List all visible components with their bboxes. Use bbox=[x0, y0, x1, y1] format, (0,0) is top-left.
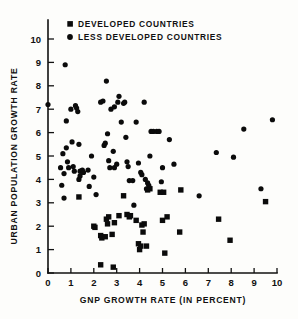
data-point-circle bbox=[71, 164, 76, 169]
series-developed bbox=[76, 186, 268, 270]
data-point-circle bbox=[115, 100, 120, 105]
data-point-circle bbox=[100, 98, 105, 103]
x-axis-tick-label: 4 bbox=[137, 277, 143, 288]
x-axis-tick-label: 8 bbox=[229, 277, 234, 288]
axis-ticks bbox=[48, 39, 277, 273]
data-point-square bbox=[105, 221, 110, 226]
data-point-circle bbox=[147, 153, 152, 158]
data-point-circle bbox=[106, 158, 111, 163]
x-axis-tick-label: 5 bbox=[160, 277, 166, 288]
data-point-circle bbox=[241, 126, 246, 131]
data-point-circle bbox=[107, 165, 112, 170]
data-point-circle bbox=[160, 165, 165, 170]
data-point-circle bbox=[124, 159, 129, 164]
data-point-square bbox=[177, 229, 182, 234]
y-axis-tick-label: 6 bbox=[36, 127, 41, 138]
data-point-circle bbox=[63, 62, 68, 67]
x-axis-tick-label: 0 bbox=[45, 277, 50, 288]
data-point-circle bbox=[131, 203, 136, 208]
legend-marker-circle bbox=[67, 34, 73, 40]
data-point-square bbox=[144, 243, 149, 248]
data-point-circle bbox=[116, 94, 121, 99]
data-point-circle bbox=[139, 172, 144, 177]
data-point-circle bbox=[59, 183, 64, 188]
data-point-square bbox=[111, 264, 116, 269]
data-point-square bbox=[162, 250, 167, 255]
data-point-circle bbox=[65, 159, 70, 164]
x-axis-tick-label: 1 bbox=[68, 277, 74, 288]
x-axis-tick-label: 10 bbox=[272, 277, 283, 288]
data-point-circle bbox=[111, 149, 116, 154]
data-point-circle bbox=[119, 119, 124, 124]
data-point-circle bbox=[146, 183, 151, 188]
legend-marker-square bbox=[67, 21, 73, 27]
data-point-circle bbox=[81, 170, 86, 175]
y-axis-tick-label: 4 bbox=[36, 174, 42, 185]
data-point-square bbox=[109, 232, 114, 237]
data-point-circle bbox=[159, 179, 164, 184]
data-point-square bbox=[92, 225, 97, 230]
data-point-circle bbox=[58, 165, 63, 170]
data-point-circle bbox=[126, 164, 131, 169]
x-axis-tick-label: 2 bbox=[91, 277, 96, 288]
y-axis-tick-label: 5 bbox=[36, 151, 42, 162]
data-point-circle bbox=[91, 174, 96, 179]
data-point-circle bbox=[64, 145, 69, 150]
data-point-square bbox=[133, 218, 138, 223]
y-axis-tick-label: 2 bbox=[36, 221, 41, 232]
data-point-square bbox=[112, 220, 117, 225]
chart-legend: DEVELOPED COUNTRIESLESS DEVELOPED COUNTR… bbox=[67, 19, 222, 42]
x-axis-tick-label: 9 bbox=[251, 277, 256, 288]
chart-canvas: 012345678910012345678910 DEVELOPED COUNT… bbox=[0, 0, 298, 319]
data-point-circle bbox=[142, 100, 147, 105]
data-point-circle bbox=[69, 139, 74, 144]
data-point-circle bbox=[85, 167, 90, 172]
x-axis-tick-label: 6 bbox=[183, 277, 188, 288]
data-point-square bbox=[98, 262, 103, 267]
data-point-circle bbox=[60, 151, 65, 156]
data-point-circle bbox=[122, 100, 127, 105]
data-point-circle bbox=[72, 169, 77, 174]
data-point-circle bbox=[134, 119, 139, 124]
data-point-circle bbox=[231, 155, 236, 160]
legend-label: LESS DEVELOPED COUNTRIES bbox=[78, 32, 222, 42]
data-point-circle bbox=[197, 193, 202, 198]
data-points bbox=[45, 62, 275, 270]
data-point-square bbox=[216, 216, 221, 221]
data-point-square bbox=[138, 243, 143, 248]
data-point-square bbox=[263, 199, 268, 204]
x-axis-tick-label: 3 bbox=[114, 277, 119, 288]
data-point-circle bbox=[87, 184, 92, 189]
scatter-chart-figure: 012345678910012345678910 DEVELOPED COUNT… bbox=[0, 0, 298, 319]
data-point-circle bbox=[156, 129, 161, 134]
data-point-circle bbox=[270, 117, 275, 122]
series-less-developed bbox=[45, 62, 275, 208]
data-point-circle bbox=[89, 153, 94, 158]
data-point-square bbox=[141, 221, 146, 226]
data-point-square bbox=[121, 193, 126, 198]
data-point-circle bbox=[258, 186, 263, 191]
data-point-circle bbox=[75, 109, 80, 114]
y-axis-tick-label: 3 bbox=[36, 197, 41, 208]
data-point-circle bbox=[130, 178, 135, 183]
x-axis-tick-label: 7 bbox=[206, 277, 211, 288]
data-point-circle bbox=[103, 141, 108, 146]
data-point-square bbox=[164, 214, 169, 219]
data-point-circle bbox=[93, 192, 98, 197]
data-point-circle bbox=[167, 137, 172, 142]
y-axis-title: URBAN POPULATION GROWTH RATE bbox=[9, 68, 19, 245]
y-axis-tick-label: 10 bbox=[30, 34, 41, 45]
data-point-circle bbox=[61, 171, 66, 176]
data-point-circle bbox=[214, 150, 219, 155]
data-point-square bbox=[106, 214, 111, 219]
y-axis-tick-label: 1 bbox=[36, 244, 42, 255]
data-point-circle bbox=[66, 165, 71, 170]
data-point-circle bbox=[114, 162, 119, 167]
y-axis-tick-label: 0 bbox=[36, 268, 41, 279]
data-point-circle bbox=[136, 160, 141, 165]
legend-label: DEVELOPED COUNTRIES bbox=[78, 19, 195, 29]
data-point-square bbox=[76, 194, 81, 199]
data-point-square bbox=[116, 213, 121, 218]
data-point-circle bbox=[123, 135, 128, 140]
data-point-square bbox=[128, 213, 133, 218]
